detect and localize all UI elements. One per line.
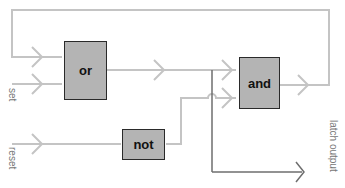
- not-gate-label: not: [133, 137, 153, 152]
- circuit-wires: [0, 0, 345, 188]
- and-gate: and: [239, 57, 280, 109]
- reset-label: reset: [7, 147, 18, 169]
- and-gate-label: and: [248, 76, 271, 91]
- or-gate: or: [64, 41, 107, 100]
- feedback-wire: [12, 10, 329, 85]
- not-output-wire: [166, 94, 236, 144]
- set-label: set: [7, 88, 18, 101]
- latch-output-label: latch output: [328, 120, 339, 172]
- or-gate-label: or: [79, 63, 92, 78]
- not-gate: not: [122, 129, 165, 160]
